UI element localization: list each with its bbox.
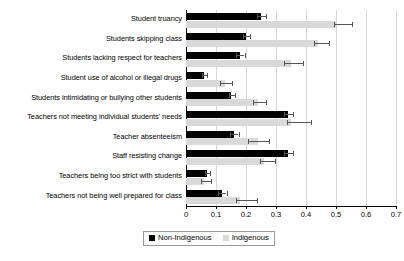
bar-indigenous — [186, 138, 258, 145]
chart-legend: Non-Indigenous Indigenous — [143, 231, 275, 246]
error-bar-cap — [352, 22, 353, 27]
x-tick-mark — [366, 206, 367, 209]
error-bar-cap — [266, 100, 267, 105]
error-bar — [218, 193, 226, 194]
error-bar — [243, 36, 250, 37]
error-bar — [236, 200, 257, 201]
bar-indigenous — [186, 40, 318, 47]
category-label: Teachers not being well prepared for cla… — [46, 192, 182, 200]
plot-area — [186, 10, 396, 206]
error-bar — [260, 161, 276, 162]
bar-non-indigenous — [186, 13, 261, 20]
x-tick-label: 0.7 — [391, 210, 402, 219]
error-bar-cap — [236, 198, 237, 203]
legend-swatch-icon — [149, 235, 155, 241]
error-bar-cap — [232, 81, 233, 86]
error-bar — [236, 55, 244, 56]
gridline — [336, 10, 337, 206]
error-bar — [230, 134, 238, 135]
bar-chart: Student truancyStudents skipping classSt… — [0, 0, 404, 261]
error-bar-cap — [257, 14, 258, 19]
error-bar-cap — [205, 171, 206, 176]
error-bar-cap — [260, 159, 261, 164]
error-bar-cap — [248, 139, 249, 144]
error-bar — [220, 83, 232, 84]
category-label: Students lacking respect for teachers — [62, 54, 182, 62]
error-bar-cap — [311, 120, 312, 125]
error-bar-cap — [235, 93, 236, 98]
x-tick-label: 0.2 — [241, 210, 252, 219]
error-bar-cap — [275, 159, 276, 164]
error-bar-cap — [303, 61, 304, 66]
gridline — [246, 10, 247, 206]
error-bar-cap — [250, 34, 251, 39]
error-bar-cap — [253, 100, 254, 105]
category-label: Student truancy — [131, 15, 182, 23]
category-label: Students skipping class — [106, 35, 182, 43]
x-tick-mark — [336, 206, 337, 209]
legend-item-indigenous: Indigenous — [223, 233, 269, 243]
x-tick-mark — [276, 206, 277, 209]
bar-indigenous — [186, 158, 264, 165]
error-bar-cap — [293, 112, 294, 117]
gridline — [306, 10, 307, 206]
gridline — [276, 10, 277, 206]
bar-non-indigenous — [186, 131, 234, 138]
error-bar-cap — [329, 41, 330, 46]
error-bar-cap — [245, 53, 246, 58]
error-bar-cap — [287, 120, 288, 125]
error-bar — [257, 16, 267, 17]
x-tick-label: 0.3 — [271, 210, 282, 219]
bar-indigenous — [186, 60, 291, 67]
error-bar — [248, 141, 269, 142]
error-bar-cap — [284, 61, 285, 66]
category-label: Students intimidating or bullying other … — [31, 94, 182, 102]
x-tick-label: 0.4 — [301, 210, 312, 219]
error-bar-cap — [257, 198, 258, 203]
error-bar-cap — [266, 14, 267, 19]
bar-non-indigenous — [186, 150, 288, 157]
error-bar-cap — [239, 132, 240, 137]
error-bar — [253, 102, 267, 103]
error-bar-cap — [243, 34, 244, 39]
gridline — [396, 10, 397, 206]
error-bar-cap — [218, 191, 219, 196]
error-bar-cap — [201, 179, 202, 184]
error-bar-cap — [269, 139, 270, 144]
error-bar-cap — [293, 151, 294, 156]
bar-indigenous — [186, 197, 240, 204]
error-bar-cap — [284, 112, 285, 117]
error-bar — [284, 63, 304, 64]
bar-non-indigenous — [186, 190, 222, 197]
bar-non-indigenous — [186, 52, 240, 59]
gridline — [366, 10, 367, 206]
error-bar-cap — [229, 93, 230, 98]
error-bar-cap — [230, 132, 231, 137]
error-bar — [284, 153, 294, 154]
bar-non-indigenous — [186, 92, 231, 99]
category-label: Teachers being too strict with students — [59, 172, 182, 180]
category-label: Teachers not meeting individual students… — [27, 113, 182, 121]
error-bar — [201, 181, 211, 182]
category-axis-labels: Student truancyStudents skipping classSt… — [0, 10, 182, 206]
x-axis-line — [186, 206, 396, 207]
error-bar — [287, 122, 312, 123]
error-bar-cap — [210, 171, 211, 176]
x-tick-mark — [216, 206, 217, 209]
legend-label: Non-Indigenous — [158, 233, 212, 243]
error-bar-cap — [220, 81, 221, 86]
error-bar-cap — [284, 151, 285, 156]
x-tick-mark — [186, 206, 187, 209]
category-label: Teacher absenteeism — [113, 133, 182, 141]
error-bar — [334, 24, 352, 25]
error-bar-cap — [207, 73, 208, 78]
x-tick-label: 0.6 — [361, 210, 372, 219]
bar-non-indigenous — [186, 111, 288, 118]
error-bar — [314, 43, 330, 44]
error-bar-cap — [236, 53, 237, 58]
error-bar-cap — [314, 41, 315, 46]
bar-indigenous — [186, 119, 291, 126]
x-tick-mark — [306, 206, 307, 209]
x-tick-label: 0.1 — [211, 210, 222, 219]
bar-indigenous — [186, 21, 336, 28]
